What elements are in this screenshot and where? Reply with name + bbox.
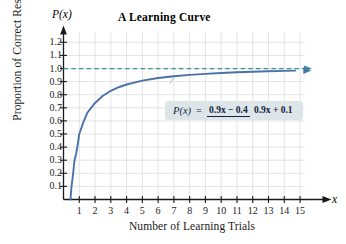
formula-numerator: 0.9x − 0.4 [207,105,250,117]
formula-fraction: 0.9x − 0.4 0.9x + 0.1 [207,105,295,116]
x-axis-arrowhead [323,196,332,203]
formula-lhs: P(x) [173,105,191,116]
learning-curve-figure: A Learning Curve P(x) x Proportion of Co… [0,0,346,244]
y-axis-arrowhead [60,26,67,35]
plot-area [0,0,346,244]
formula-equals: = [196,105,202,116]
formula-callout-box: P(x) = 0.9x − 0.4 0.9x + 0.1 [165,101,303,120]
curve-path [71,71,296,200]
formula-denominator: 0.9x + 0.1 [252,104,295,115]
